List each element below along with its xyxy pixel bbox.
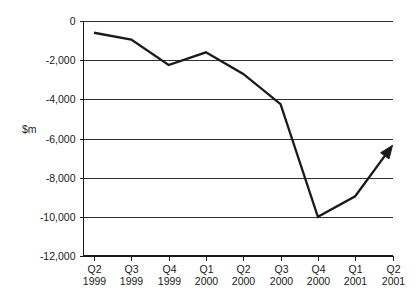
x-axis-tick-labels: Q21999Q31999Q41999Q12000Q22000Q32000Q420…	[83, 263, 406, 287]
y-axis-tick-label: -10,000	[40, 211, 76, 223]
y-axis-tick-label: -8,000	[46, 172, 76, 184]
line-chart: 0-2,000-4,000-6,000-8,000-10,000-12,000 …	[0, 0, 420, 305]
y-axis-tick-label: 0	[70, 15, 76, 27]
chart-canvas: 0-2,000-4,000-6,000-8,000-10,000-12,000 …	[0, 0, 420, 305]
y-axis-label: $m	[22, 123, 37, 135]
y-axis-tick-label: -6,000	[46, 133, 76, 145]
y-axis-tick-label: -2,000	[46, 54, 76, 66]
y-axis-tick-label: -12,000	[40, 250, 76, 262]
y-axis-tick-label: -4,000	[46, 93, 76, 105]
